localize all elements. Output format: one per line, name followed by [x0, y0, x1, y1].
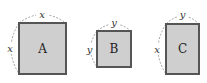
shape-label-b: B — [110, 42, 119, 56]
left-side-label-b: y — [86, 44, 93, 55]
shape-c: y x C — [152, 9, 199, 75]
shape-label-a: A — [37, 42, 47, 56]
shape-b: y y B — [85, 17, 131, 68]
top-side-label-b: y — [110, 17, 117, 28]
left-side-label-a: x — [7, 43, 13, 54]
top-side-label-a: x — [39, 9, 45, 20]
shape-a: x x A — [5, 8, 66, 74]
figure-canvas: x x A y y B y x C — [0, 0, 207, 83]
top-side-label-c: y — [179, 9, 186, 20]
shape-label-c: C — [178, 42, 187, 56]
left-side-label-c: x — [154, 44, 160, 55]
